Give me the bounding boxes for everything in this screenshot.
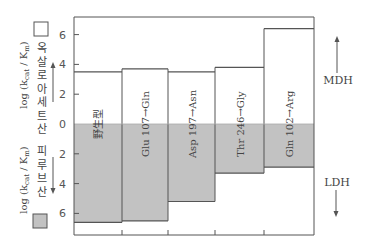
vertical-char: 산	[37, 123, 47, 136]
vertical-char: 트	[37, 110, 47, 123]
vertical-char: 피	[37, 145, 47, 158]
vertical-char: 세	[37, 96, 47, 109]
category-label: Asp 197→Asn	[187, 89, 198, 159]
category-label: Thr 246→Gly	[235, 91, 246, 157]
ldh-label: LDH	[324, 176, 350, 189]
y-axis-title-bottom: log (kcat / Km)	[18, 146, 31, 214]
category-label: Glu 107→Gln	[140, 90, 151, 156]
y-tick-label: 2	[59, 88, 66, 101]
vertical-char: 산	[37, 186, 47, 199]
y-tick-label: 6	[59, 29, 66, 42]
arrow-down-left-head	[51, 188, 56, 194]
y-tick-label: 2	[59, 148, 66, 161]
y-axis-title-top: log (kcat / Km)	[18, 41, 31, 109]
legend-pyruvate-swatch	[33, 214, 47, 228]
vertical-char: 아	[37, 83, 47, 96]
arrow-up-left-head	[51, 62, 56, 68]
vertical-char: 루	[37, 159, 47, 172]
arrow-down-ldh-head	[334, 211, 339, 217]
mdh-label: MDH	[323, 74, 353, 87]
y-tick-label: 6	[59, 207, 66, 220]
vertical-char: 브	[37, 172, 47, 185]
label-oxaloacetate: 옥살로아세트산	[37, 42, 47, 136]
label-pyruvate: 피루브산	[37, 145, 47, 199]
category-label: Gln 102→Arg	[284, 90, 295, 157]
y-tick-label: 0	[59, 118, 66, 131]
arrow-up-mdh-head	[335, 36, 340, 42]
legend-oxaloacetate-swatch	[34, 22, 48, 36]
vertical-char: 살	[37, 56, 47, 69]
y-tick-label: 4	[59, 58, 66, 71]
vertical-char: 로	[37, 69, 47, 82]
chart: 0246246 野生型Glu 107→GlnAsp 197→AsnThr 246…	[0, 0, 367, 250]
vertical-char: 옥	[37, 42, 47, 55]
y-tick-label: 4	[59, 178, 66, 191]
category-label: 野生型	[92, 109, 104, 139]
